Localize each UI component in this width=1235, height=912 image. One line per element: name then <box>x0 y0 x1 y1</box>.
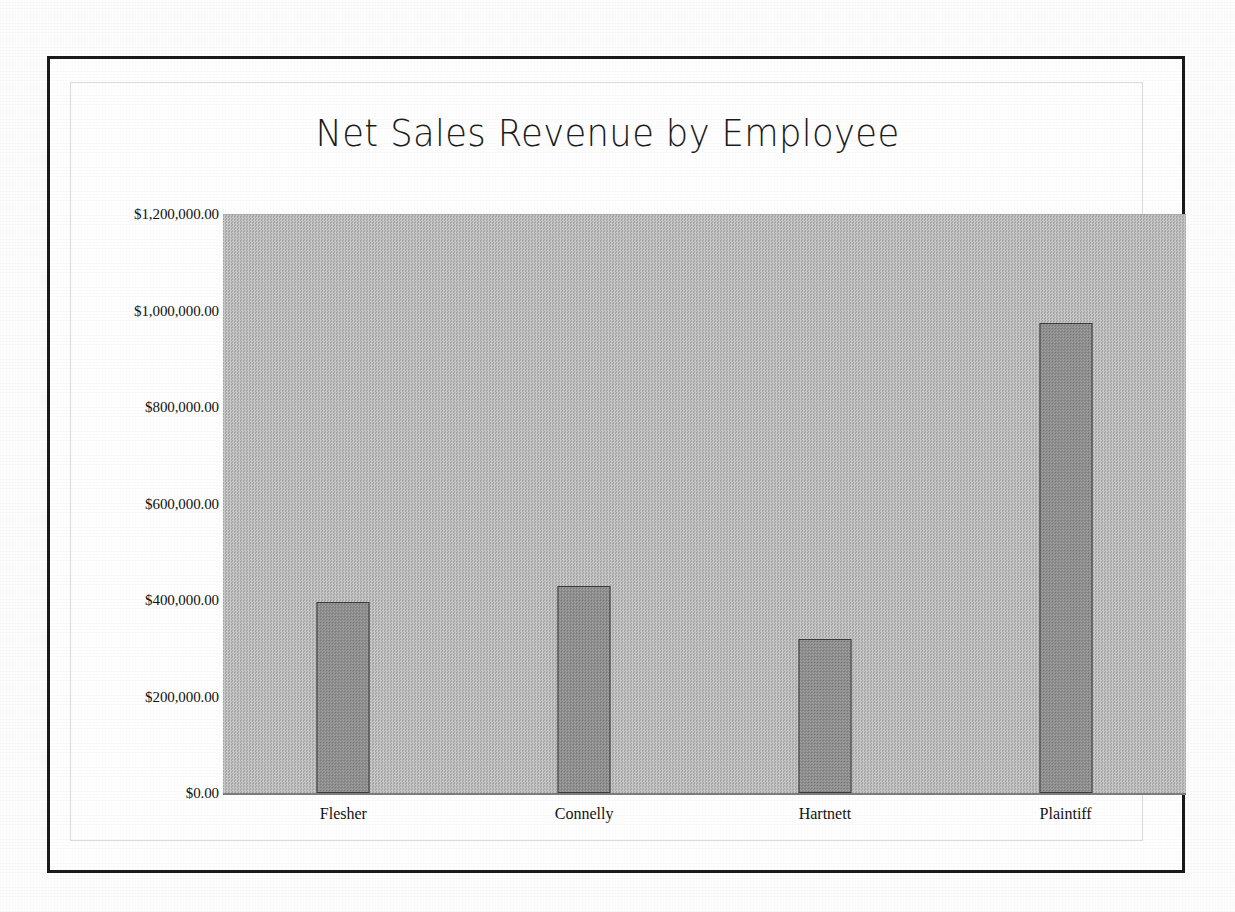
x-axis-label-connelly: Connelly <box>464 805 705 823</box>
y-axis-tick-label: $600,000.00 <box>77 495 219 512</box>
bar-slot <box>223 214 464 793</box>
bar-slot <box>464 214 705 793</box>
bar-hartnett[interactable] <box>798 639 851 793</box>
chart-title: Net Sales Revenue by Employee <box>109 111 1107 155</box>
y-axis-tick-label: $1,200,000.00 <box>77 206 219 223</box>
x-axis-label-flesher: Flesher <box>223 805 464 823</box>
scanned-page: Net Sales Revenue by Employee $0.00$200,… <box>0 0 1235 912</box>
chart-container: Net Sales Revenue by Employee $0.00$200,… <box>70 82 1143 841</box>
y-axis-tick-label: $1,000,000.00 <box>77 302 219 319</box>
x-axis-label-hartnett: Hartnett <box>705 805 946 823</box>
y-axis-tick-label: $200,000.00 <box>77 688 219 705</box>
y-axis: $0.00$200,000.00$400,000.00$600,000.00$8… <box>71 83 219 843</box>
y-axis-tick-label: $0.00 <box>77 785 219 802</box>
bar-connelly[interactable] <box>558 586 611 793</box>
y-axis-tick-label: $800,000.00 <box>77 399 219 416</box>
x-axis-label-plaintiff: Plaintiff <box>945 805 1186 823</box>
bar-flesher[interactable] <box>317 602 370 793</box>
document-frame: Net Sales Revenue by Employee $0.00$200,… <box>47 56 1185 873</box>
category-axis-line <box>223 793 1186 795</box>
bar-slot <box>945 214 1186 793</box>
y-axis-tick-label: $400,000.00 <box>77 592 219 609</box>
bar-slot <box>705 214 946 793</box>
bar-plaintiff[interactable] <box>1039 323 1092 793</box>
